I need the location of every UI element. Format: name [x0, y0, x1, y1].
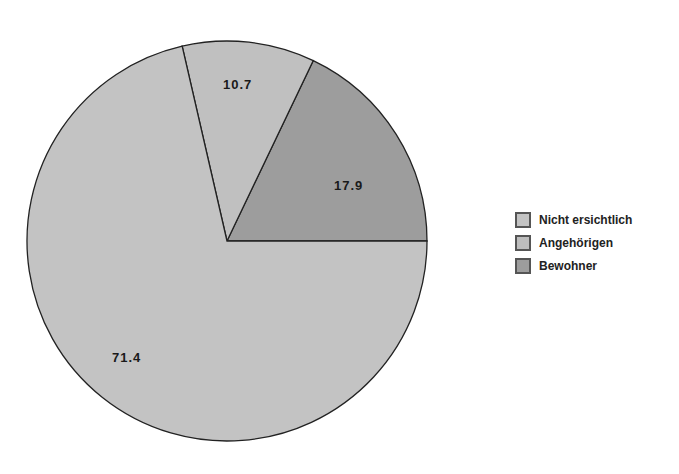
pie-slices — [27, 41, 427, 441]
legend-item-bewohner: Bewohner — [515, 254, 632, 277]
legend-item-angehoerigen: Angehörigen — [515, 231, 632, 254]
legend-label: Nicht ersichtlich — [539, 213, 632, 227]
legend-swatch — [515, 258, 531, 274]
legend-item-nicht-ersichtlich: Nicht ersichtlich — [515, 208, 632, 231]
slice-label-angehoerigen: 10.7 — [223, 77, 252, 92]
legend: Nicht ersichtlich Angehörigen Bewohner — [515, 208, 632, 277]
legend-label: Bewohner — [539, 259, 597, 273]
legend-swatch — [515, 235, 531, 251]
legend-label: Angehörigen — [539, 236, 613, 250]
slice-label-nicht-ersichtlich: 71.4 — [112, 350, 141, 365]
slice-label-bewohner: 17.9 — [334, 178, 363, 193]
legend-swatch — [515, 212, 531, 228]
